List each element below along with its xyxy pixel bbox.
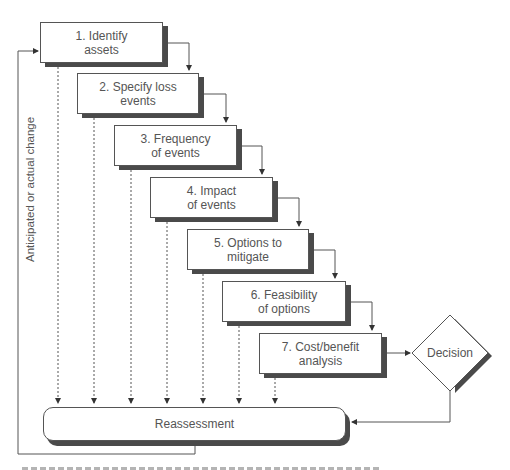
- figure-caption-clipped: [22, 462, 382, 470]
- step-3-frequency-of-events: 3. Frequency of events: [114, 125, 237, 166]
- decision-label: Decision: [412, 346, 488, 360]
- step-label: 7. Cost/benefit analysis: [282, 340, 359, 368]
- step-4-impact-of-events: 4. Impact of events: [150, 177, 273, 218]
- risk-assessment-flowchart: 1. Identify assets 2. Specify loss event…: [0, 0, 510, 470]
- step-1-identify-assets: 1. Identify assets: [40, 22, 163, 63]
- step-6-feasibility-of-options: 6. Feasibility of options: [222, 281, 346, 322]
- step-label: 3. Frequency of events: [140, 132, 210, 160]
- reassessment-label: Reassessment: [155, 417, 234, 431]
- step-label: 4. Impact of events: [187, 184, 236, 212]
- step-label: 6. Feasibility of options: [251, 288, 318, 316]
- step-2-specify-loss-events: 2. Specify loss events: [77, 73, 199, 114]
- step-label: 1. Identify assets: [75, 29, 127, 57]
- step-label: 2. Specify loss events: [99, 80, 176, 108]
- step-5-options-to-mitigate: 5. Options to mitigate: [187, 229, 309, 270]
- step-7-cost-benefit-analysis: 7. Cost/benefit analysis: [259, 333, 382, 374]
- step-label: 5. Options to mitigate: [214, 236, 282, 264]
- feedback-label: Anticipated or actual change: [24, 117, 36, 262]
- reassessment-box: Reassessment: [43, 407, 346, 441]
